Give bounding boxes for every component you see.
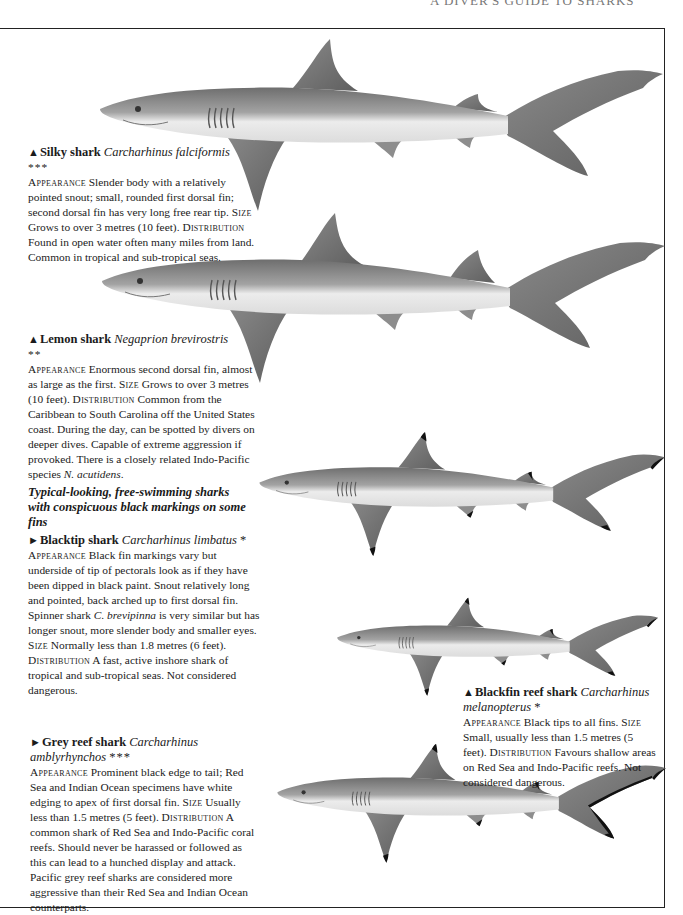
first-dorsal-fin: [293, 39, 358, 91]
label-distribution: Distribution: [73, 393, 135, 405]
triangle-right-icon: ►: [30, 736, 41, 748]
shark-figure: [337, 598, 658, 696]
latin-name: Carcharhinus falciformis: [104, 145, 230, 159]
label-appearance: Appearance: [30, 766, 88, 778]
shark-eye: [137, 278, 143, 284]
label-appearance: Appearance: [463, 716, 521, 728]
shark-body: [259, 467, 553, 507]
running-head: A DIVER'S GUIDE TO SHARKS: [430, 0, 683, 9]
label-appearance: Appearance: [28, 176, 86, 188]
entry-grey-reef-shark: ►Grey reef shark Carcharhinus amblyrhync…: [30, 735, 260, 915]
common-name: Blacktip shark: [40, 533, 119, 547]
shark-eye: [285, 480, 289, 484]
common-name: Silky shark: [40, 145, 101, 159]
label-size: Size: [28, 639, 48, 651]
entry-blackfin-reef-shark: ▲Blackfin reef shark Carcharhinus melano…: [463, 685, 658, 790]
label-appearance: Appearance: [28, 363, 86, 375]
common-name: Lemon shark: [40, 332, 111, 346]
latin-name: Negaprion brevirostris: [114, 332, 228, 346]
distribution-text: A common shark of Red Sea and Indo-Pacif…: [30, 811, 254, 913]
label-distribution: Distribution: [28, 654, 90, 666]
caudal-fin: [498, 70, 663, 176]
triangle-up-icon: ▲: [463, 686, 474, 698]
size-text: Normally less than 1.8 metres (6 feet).: [51, 639, 226, 651]
shark-body: [337, 625, 570, 656]
related-species-latin: N. acutidens: [64, 468, 121, 480]
entry-body: Appearance Slender body with a relativel…: [28, 175, 258, 265]
similar-species-latin: C. brevipinna: [94, 609, 156, 621]
label-distribution: Distribution: [490, 746, 552, 758]
blacktip-shark-drawing: [258, 430, 668, 595]
blacktip-shark-illustration: [258, 430, 668, 595]
section-heading: Typical-looking, free-swimming sharks wi…: [28, 485, 253, 530]
label-size: Size: [119, 378, 139, 390]
common-name: Grey reef shark: [42, 735, 126, 749]
label-size: Size: [232, 206, 252, 218]
pectoral-fin: [348, 498, 395, 556]
danger-rating: ***: [28, 160, 258, 175]
entry-body: Appearance Prominent black edge to tail;…: [30, 765, 260, 915]
pectoral-fin: [407, 650, 444, 696]
entry-blacktip-shark: ►Blacktip shark Carcharhinus limbatus * …: [28, 533, 260, 698]
entry-body: Appearance Black tips to all fins. Size …: [463, 715, 658, 790]
entry-heading: ▲Lemon shark Negaprion brevirostris: [28, 332, 256, 347]
danger-rating: *: [534, 700, 541, 714]
entry-heading: ▲Blackfin reef shark Carcharhinus melano…: [463, 685, 658, 715]
pectoral-fin: [362, 808, 407, 863]
appearance-text: Black tips to all fins.: [524, 716, 619, 728]
triangle-right-icon: ►: [28, 534, 39, 546]
caudal-fin: [546, 455, 665, 531]
danger-rating: **: [28, 347, 256, 362]
entry-body: Appearance Enormous second dorsal fin, a…: [28, 362, 256, 482]
common-name: Blackfin reef shark: [475, 685, 578, 699]
caudal-fin: [564, 615, 658, 675]
entry-heading: ►Grey reef shark Carcharhinus amblyrhync…: [30, 735, 260, 765]
shark-eye: [302, 790, 306, 794]
danger-rating: *: [240, 533, 247, 547]
entry-lemon-shark: ▲Lemon shark Negaprion brevirostris ** A…: [28, 332, 256, 482]
danger-rating: ***: [109, 750, 131, 764]
entry-body: Appearance Black fin markings vary but u…: [28, 548, 260, 698]
size-text: Grows to over 3 metres (10 feet).: [28, 221, 180, 233]
label-appearance: Appearance: [28, 549, 86, 561]
caudal-fin: [500, 242, 665, 348]
shark-body: [100, 88, 508, 143]
shark-eye: [357, 636, 360, 639]
shark-body: [102, 260, 510, 315]
label-distribution: Distribution: [162, 811, 224, 823]
latin-name: Carcharhinus limbatus: [122, 533, 237, 547]
first-dorsal-fin: [300, 213, 365, 266]
distribution-text: Found in open water often many miles fro…: [28, 236, 254, 263]
shark-figure: [259, 432, 664, 556]
entry-heading: ►Blacktip shark Carcharhinus limbatus *: [28, 533, 260, 548]
distribution-text: Common from the Caribbean to South Carol…: [28, 393, 255, 480]
label-size: Size: [182, 796, 202, 808]
label-distribution: Distribution: [182, 221, 244, 233]
entry-heading: ▲Silky shark Carcharhinus falciformis: [28, 145, 258, 160]
triangle-up-icon: ▲: [28, 146, 39, 158]
label-size: Size: [621, 716, 641, 728]
entry-silky-shark: ▲Silky shark Carcharhinus falciformis **…: [28, 145, 258, 265]
triangle-up-icon: ▲: [28, 333, 39, 345]
shark-eye: [135, 106, 141, 112]
punctuation: .: [121, 468, 124, 480]
